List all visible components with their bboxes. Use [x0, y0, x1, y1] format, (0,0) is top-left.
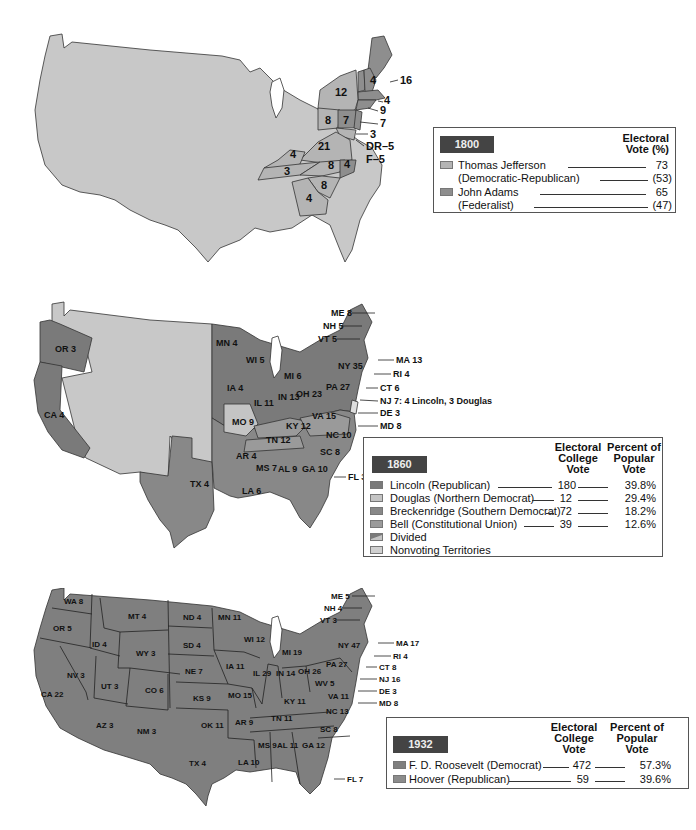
header-popular-line3: Vote — [607, 464, 661, 475]
label-de: DE 3 — [379, 687, 397, 696]
label-la: LA 6 — [242, 486, 261, 496]
row-label: Nonvoting Territories — [390, 543, 491, 557]
label-me: ME 5 — [331, 592, 350, 601]
legend-1932: 1932 Electoral College Vote Percent of P… — [386, 717, 689, 789]
header-electoral-line3: Vote — [549, 744, 599, 755]
label-tn: TN 11 — [271, 714, 293, 723]
label-mn-line: MN 11 — [218, 613, 242, 622]
map-1860: OR 3 CA 4 TX 4 MN 4 WI 5 IA 4 MI 6 IL 11… — [0, 300, 696, 585]
leader-dots — [600, 171, 648, 181]
label-mt: MT 4 — [128, 612, 147, 621]
electoral-votes: 72 — [554, 504, 572, 518]
label-id: ID 4 — [92, 640, 107, 649]
label-mi: MI 19 — [282, 648, 303, 657]
label-vt: VT 5 — [318, 334, 337, 344]
header-electoral-line3: Vote — [554, 464, 602, 475]
label-7-pa-east: 7 — [343, 114, 349, 126]
label-ma: MA 13 — [396, 355, 422, 365]
label-sd: SD 4 — [183, 641, 201, 650]
leader-dots — [578, 478, 608, 488]
label-mi: MI 6 — [284, 371, 302, 381]
legend-1860-col-electoral: Electoral College Vote — [554, 442, 602, 475]
leader-dots — [524, 517, 554, 527]
electoral-votes: 59 — [571, 772, 589, 786]
label-mo: MO 15 — [228, 691, 253, 700]
header-popular-line3: Vote — [609, 744, 665, 755]
swatch-jefferson — [440, 161, 453, 169]
percent: (47) — [652, 198, 672, 212]
swatch-nonvoting — [370, 546, 383, 554]
label-dr5-md: DR–5 — [366, 140, 394, 152]
label-ut: UT 3 — [101, 682, 119, 691]
swatch-roosevelt — [393, 761, 406, 769]
label-3-tn: 3 — [284, 165, 290, 177]
leader-dots — [509, 772, 571, 782]
label-nj: NJ 7: 4 Lincoln, 3 Douglas — [380, 396, 492, 406]
row-label: Breckenridge (Southern Democrat) — [390, 504, 561, 518]
label-oh: OH 23 — [296, 389, 322, 399]
label-3-de: 3 — [370, 128, 376, 140]
row-label: F. D. Roosevelt (Democrat) — [409, 758, 542, 772]
swatch-lincoln — [370, 481, 383, 489]
row-label: Bell (Constitutional Union) — [390, 517, 517, 531]
legend-1860-row-divided: Divided — [370, 530, 660, 544]
swatch-divided — [370, 533, 383, 541]
label-ny: NY 35 — [338, 361, 363, 371]
label-nv: NV 3 — [67, 671, 85, 680]
label-wv: WV 5 — [315, 679, 335, 688]
leader-dots — [578, 504, 608, 514]
percent: (53) — [652, 171, 672, 185]
label-il: IL 11 — [254, 398, 274, 408]
legend-1800-row-jefferson: Thomas Jefferson 73 — [440, 158, 672, 172]
label-pa: PA 27 — [326, 660, 348, 669]
leader-dots — [595, 772, 625, 782]
leader-dots — [578, 517, 608, 527]
swatch-bell — [370, 520, 383, 528]
leader-dots — [498, 478, 552, 488]
legend-1932-year-badge: 1932 — [393, 736, 448, 753]
label-me: ME 8 — [331, 308, 352, 318]
label-8-pa-west: 8 — [325, 114, 331, 126]
leader-dots — [595, 758, 625, 768]
legend-1932-row-roosevelt: F. D. Roosevelt (Democrat) 472 57.3% — [393, 758, 685, 772]
label-21-va: 21 — [318, 140, 330, 152]
legend-1800-year-badge: 1800 — [440, 136, 494, 153]
label-wa: WA 8 — [64, 597, 84, 606]
label-16: 16 — [400, 74, 412, 86]
label-ia: IA 11 — [226, 662, 245, 671]
label-ct: CT 6 — [380, 383, 400, 393]
label-al: AL 9 — [278, 464, 297, 474]
label-ct: CT 8 — [379, 663, 397, 672]
map-1932-svg: WA 8 OR 5 CA 22 ID 4 NV 3 MT 4 WY 3 UT 3… — [0, 588, 696, 830]
label-fl: FL 7 — [347, 775, 364, 784]
popular-percent: 12.6% — [625, 517, 656, 531]
legend-1860-row-bell: Bell (Constitutional Union) 39 12.6% — [370, 517, 660, 531]
label-il: IL 29 — [253, 669, 272, 678]
label-ar: AR 9 — [235, 718, 254, 727]
swatch-breckenridge — [370, 507, 383, 515]
row-label: Douglas (Northern Democrat) — [390, 491, 534, 505]
label-ms: MS 7 — [256, 463, 277, 473]
legend-1860: 1860 Electoral College Vote Percent of P… — [363, 437, 663, 557]
label-mo: MO 9 — [232, 417, 254, 427]
swatch-douglas — [370, 494, 383, 502]
label-wy: WY 3 — [136, 649, 156, 658]
leader-dots — [568, 158, 646, 168]
label-ga: GA 12 — [302, 741, 325, 750]
leader-dots — [546, 504, 554, 514]
label-ma: MA 17 — [396, 639, 420, 648]
label-f5-md: F–5 — [366, 153, 385, 165]
label-4-ga: 4 — [306, 192, 313, 204]
label-tn: TN 12 — [266, 435, 291, 445]
label-ga: GA 10 — [302, 464, 328, 474]
popular-percent: 39.6% — [640, 772, 671, 786]
leader-dots — [543, 758, 569, 768]
party-name: (Democratic-Republican) — [458, 171, 580, 185]
label-ms: MS 9 — [258, 741, 277, 750]
label-ky: KY 12 — [286, 421, 311, 431]
state-ct-ri-1800 — [356, 100, 376, 110]
label-8-nc: 8 — [328, 159, 334, 171]
label-or: OR 5 — [53, 624, 72, 633]
label-nj: NJ 16 — [379, 675, 401, 684]
leader-dots — [578, 491, 608, 501]
